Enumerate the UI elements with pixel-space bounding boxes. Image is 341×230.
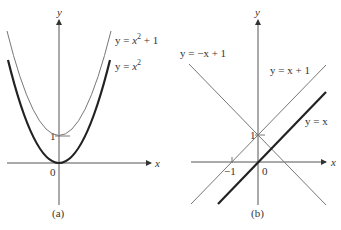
caption-b: (b) (251, 207, 264, 220)
x-axis-label: x (154, 157, 160, 169)
label-x-squared: y = x2 (115, 58, 141, 72)
origin-label: 0 (262, 165, 268, 177)
label-neg-x-plus-one: y = −x + 1 (180, 47, 226, 59)
label-x-squared-plus-one: y = x2 + 1 (115, 32, 158, 46)
panel-a: x y 0 1 y = x2 + 1 y = x2 (a) (7, 6, 160, 220)
label-x-plus-one: y = x + 1 (270, 64, 310, 76)
caption-a: (a) (52, 207, 65, 220)
y-tick-1-label: 1 (250, 129, 256, 141)
x-tick-neg1-label: −1 (224, 165, 236, 177)
x-axis-label: x (330, 156, 336, 168)
y-tick-1-label: 1 (50, 130, 56, 142)
origin-label: 0 (50, 166, 56, 178)
line-x (218, 92, 326, 204)
panel-b: x y 0 −1 1 y = −x + 1 y = x + 1 y = x (b… (180, 6, 336, 220)
figure: x y 0 1 y = x2 + 1 y = x2 (a) x y 0 −1 1 (0, 0, 341, 230)
label-x: y = x (305, 115, 328, 127)
y-axis-label: y (56, 6, 62, 18)
y-axis-label: y (254, 6, 260, 18)
